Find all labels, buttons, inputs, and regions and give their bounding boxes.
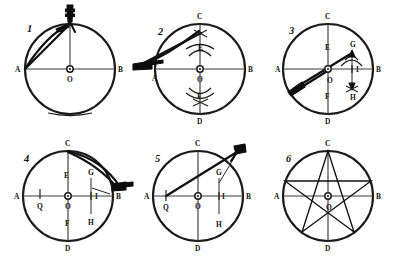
panel-5-number: 5 xyxy=(155,153,160,164)
panel-2-number: 2 xyxy=(157,26,164,37)
panel-6-label-C: C xyxy=(325,139,330,148)
panel-2-label-C: C xyxy=(197,12,202,21)
panel-5-label-D: D xyxy=(195,244,200,253)
panel-5-label-A: A xyxy=(144,192,150,201)
paper-background xyxy=(0,0,394,264)
panel-4-label-D: D xyxy=(65,244,70,253)
figure-canvas: 1 A B O 2 xyxy=(0,0,394,264)
panel-3-label-A: A xyxy=(275,65,281,74)
panel-3-centre-dot xyxy=(327,68,329,70)
panel-5-label-C: C xyxy=(195,139,200,148)
panel-2-label-F: F xyxy=(197,92,202,101)
panel-4-centre-dot xyxy=(67,195,69,197)
panel-3-label-C: C xyxy=(325,12,330,21)
panel-1-label-B: B xyxy=(118,65,123,74)
panel-4-label-B: B xyxy=(116,192,121,201)
panel-3-number: 3 xyxy=(288,25,294,36)
panel-5-label-B: B xyxy=(246,192,251,201)
panel-4-number: 4 xyxy=(23,153,29,164)
panel-2-centre-dot xyxy=(199,68,201,70)
panel-6-centre-dot xyxy=(327,195,329,197)
panel-2-label-D: D xyxy=(197,117,202,126)
panel-1-number: 1 xyxy=(27,23,32,34)
panel-4-label-Q: Q xyxy=(37,202,43,211)
panel-1-label-A: A xyxy=(15,65,21,74)
panel-2-label-A: A xyxy=(152,74,158,83)
panel-4-label-O: O xyxy=(65,202,71,211)
panel-4-label-A: A xyxy=(14,192,20,201)
panel-3-label-H: H xyxy=(350,93,356,102)
panel-3-label-D: D xyxy=(325,117,330,126)
panel-6-label-A: A xyxy=(274,192,280,201)
panel-4-label-H: H xyxy=(88,218,94,227)
panel-5-centre-dot xyxy=(197,195,199,197)
panel-5-label-I: I xyxy=(222,192,225,201)
panel-6-label-O: O xyxy=(326,203,332,212)
panel-1-label-O: O xyxy=(67,75,73,84)
panel-1-centre-dot xyxy=(69,68,71,70)
panel-2-label-B: B xyxy=(248,65,253,74)
panel-4-label-I: I xyxy=(95,192,98,201)
panel-6-label-B: B xyxy=(376,192,381,201)
panel-4-label-F: F xyxy=(65,219,70,228)
panel-3-label-I: I xyxy=(356,65,359,74)
panel-5-label-H: H xyxy=(216,220,222,229)
panel-3-label-B: B xyxy=(376,65,381,74)
panel-6-label-D: D xyxy=(325,244,330,253)
panel-5-label-O: O xyxy=(195,202,201,211)
panel-4-label-E: E xyxy=(64,171,69,180)
panel-6-number: 6 xyxy=(286,153,292,164)
panel-3-label-O: O xyxy=(327,76,333,85)
panel-3-label-F: F xyxy=(325,92,330,101)
panel-4-label-C: C xyxy=(65,139,70,148)
pentagon-construction-figure: 1 A B O 2 xyxy=(0,0,394,264)
panel-5-label-G: G xyxy=(216,168,222,177)
panel-5-label-Q: Q xyxy=(163,203,169,212)
panel-3-label-E: E xyxy=(325,43,330,52)
panel-2-label-O: O xyxy=(197,75,203,84)
panel-2-label-E: E xyxy=(198,43,203,52)
panel-4-label-G: G xyxy=(88,168,94,177)
panel-3-label-G: G xyxy=(350,40,356,49)
